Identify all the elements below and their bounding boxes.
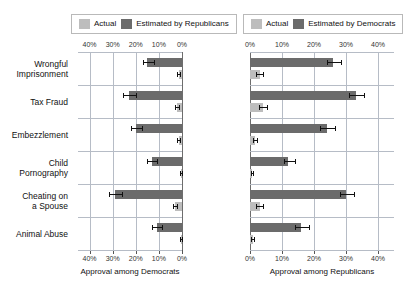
- row-separator: [250, 250, 394, 251]
- category-label: Cheating on a Spouse: [22, 191, 68, 211]
- legend-item: Estimated by Republicans: [121, 19, 229, 29]
- error-bar-cap: [257, 138, 258, 143]
- x-tick-label: 20%: [129, 255, 143, 262]
- x-tick-label: 40%: [371, 41, 385, 48]
- error-bar-cap: [179, 105, 180, 110]
- x-tick-label: 0%: [245, 41, 255, 48]
- error-bar: [147, 161, 156, 162]
- error-bar-cap: [267, 105, 268, 110]
- bar: [136, 124, 182, 133]
- error-bar: [109, 194, 122, 195]
- category-label: Embezzlement: [12, 130, 68, 140]
- error-bar-cap: [263, 72, 264, 77]
- error-bar: [256, 206, 263, 207]
- row-separator: [78, 118, 182, 119]
- x-tick-label: 40%: [371, 255, 385, 262]
- error-bar-cap: [154, 60, 155, 65]
- row-separator: [250, 85, 394, 86]
- chart-page: ActualEstimated by Republicans ActualEst…: [0, 0, 407, 294]
- error-bar-cap: [256, 72, 257, 77]
- error-bar-cap: [284, 159, 285, 164]
- error-bar-cap: [263, 204, 264, 209]
- x-tick-mark: [182, 250, 183, 254]
- row-separator: [250, 184, 394, 185]
- error-bar-cap: [173, 204, 174, 209]
- error-bar-cap: [327, 60, 328, 65]
- error-bar: [152, 227, 162, 228]
- category-axis-labels: Wrongful ImprisonmentTax FraudEmbezzleme…: [0, 52, 72, 250]
- error-bar: [256, 74, 263, 75]
- error-bar-cap: [152, 225, 153, 230]
- x-tick-label: 40%: [83, 255, 97, 262]
- error-bar-cap: [136, 93, 137, 98]
- x-tick-label: 0%: [177, 255, 187, 262]
- x-tick-label: 10%: [275, 255, 289, 262]
- legend-label: Actual: [94, 20, 116, 28]
- left-axis-title: Approval among Democrats: [80, 268, 179, 276]
- x-tick-label: 30%: [339, 41, 353, 48]
- legend-swatch-icon: [79, 19, 90, 29]
- legend-item: Actual: [79, 19, 116, 29]
- x-tick-label: 20%: [129, 41, 143, 48]
- error-bar: [131, 128, 141, 129]
- legend-label: Actual: [266, 20, 288, 28]
- x-tick-label: 30%: [339, 255, 353, 262]
- error-bar-cap: [259, 105, 260, 110]
- row-separator: [78, 85, 182, 86]
- error-bar-cap: [177, 138, 178, 143]
- zero-axis-line: [182, 52, 183, 250]
- x-tick-label: 20%: [307, 41, 321, 48]
- row-separator: [78, 151, 182, 152]
- bar: [250, 58, 333, 67]
- category-label: Child Pornography: [19, 158, 68, 178]
- right-axis-title: Approval among Republicans: [270, 268, 375, 276]
- legend-row: ActualEstimated by Republicans ActualEst…: [0, 14, 407, 36]
- x-tick-label: 30%: [106, 41, 120, 48]
- row-separator: [250, 151, 394, 152]
- error-bar: [349, 95, 363, 96]
- error-bar-cap: [256, 204, 257, 209]
- error-bar: [340, 194, 354, 195]
- error-bar: [320, 128, 334, 129]
- democrats-legend: ActualEstimated by Democrats: [243, 14, 403, 34]
- bar: [129, 91, 182, 100]
- bar: [250, 190, 346, 199]
- row-separator: [250, 52, 394, 53]
- error-bar-cap: [335, 126, 336, 131]
- bar: [250, 223, 301, 232]
- error-bar-cap: [364, 93, 365, 98]
- legend-label: Estimated by Democrats: [308, 20, 395, 28]
- error-bar-cap: [182, 237, 183, 242]
- x-tick-label: 40%: [83, 41, 97, 48]
- row-separator: [78, 52, 182, 53]
- error-bar-cap: [253, 171, 254, 176]
- error-bar-cap: [109, 192, 110, 197]
- x-tick-label: 10%: [152, 41, 166, 48]
- error-bar-cap: [340, 192, 341, 197]
- row-separator: [78, 184, 182, 185]
- error-bar-cap: [182, 171, 183, 176]
- error-bar-cap: [253, 138, 254, 143]
- error-bar-cap: [177, 204, 178, 209]
- error-bar-cap: [295, 225, 296, 230]
- error-bar-cap: [349, 93, 350, 98]
- error-bar-cap: [177, 72, 178, 77]
- error-bar-cap: [251, 171, 252, 176]
- bar: [250, 124, 327, 133]
- error-bar: [284, 161, 295, 162]
- error-bar-cap: [143, 60, 144, 65]
- error-bar-cap: [251, 237, 252, 242]
- x-tick-label: 30%: [106, 255, 120, 262]
- x-tick-label: 20%: [307, 255, 321, 262]
- x-tick-label: 0%: [245, 255, 255, 262]
- error-bar-cap: [254, 237, 255, 242]
- legend-label: Estimated by Republicans: [136, 20, 229, 28]
- error-bar-cap: [309, 225, 310, 230]
- bar: [250, 91, 356, 100]
- error-bar: [143, 62, 155, 63]
- error-bar-cap: [180, 72, 181, 77]
- error-bar-cap: [157, 159, 158, 164]
- left-chart-panel: 40%40%30%30%20%20%10%10%0%0%: [78, 52, 182, 250]
- error-bar: [259, 107, 267, 108]
- legend-swatch-icon: [293, 19, 304, 29]
